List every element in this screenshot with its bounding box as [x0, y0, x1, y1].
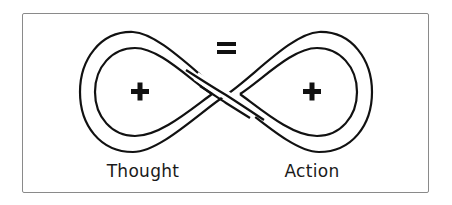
- left-loop-inner: [95, 48, 212, 136]
- right-plus-icon: [303, 83, 321, 101]
- right-loop-outer: [226, 32, 372, 152]
- left-loop-outer: [80, 32, 226, 152]
- action-label: Action: [284, 163, 339, 180]
- left-plus-icon: [131, 83, 149, 101]
- equals-icon: [217, 42, 236, 54]
- right-loop-inner: [240, 48, 357, 136]
- infinity-diagram: [0, 0, 452, 205]
- thought-label: Thought: [107, 163, 180, 180]
